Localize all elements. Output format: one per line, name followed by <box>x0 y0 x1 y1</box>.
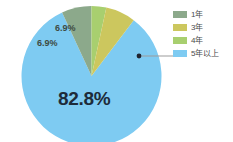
legend-swatch-3nen <box>173 24 187 31</box>
legend-label-1nen: 1年 <box>191 10 203 19</box>
legend-swatch-5nen-ijou <box>173 50 187 57</box>
legend-item-1nen[interactable]: 1年 <box>173 10 233 19</box>
legend-label-5nen-ijou: 5年以上 <box>191 49 219 58</box>
legend-item-3nen[interactable]: 3年 <box>173 23 233 32</box>
callout-dot-icon <box>137 54 142 59</box>
legend-swatch-1nen <box>173 11 187 18</box>
chart-legend: 1年 3年 4年 5年以上 <box>173 10 233 58</box>
pie-slices <box>22 6 162 142</box>
legend-item-4nen[interactable]: 4年 <box>173 36 233 45</box>
legend-item-5nen-ijou[interactable]: 5年以上 <box>173 49 233 58</box>
legend-swatch-4nen <box>173 37 187 44</box>
legend-label-4nen: 4年 <box>191 36 203 45</box>
legend-label-3nen: 3年 <box>191 23 203 32</box>
pie-chart-figure: 82.8% 6.9% 6.9% 1年 3年 4年 5年以上 <box>0 0 233 142</box>
